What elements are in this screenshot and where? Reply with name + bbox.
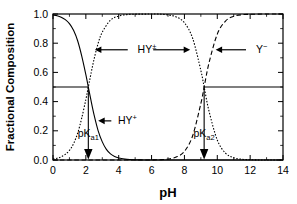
x-tick-label: 2 (83, 164, 89, 176)
y-tick-label: 0.6 (33, 66, 48, 78)
annotation-pka1-subscript: a1 (90, 133, 98, 142)
x-tick-label: 4 (116, 164, 122, 176)
annotation-pka2-text: pK (193, 127, 206, 139)
y-tick-label: 0.0 (33, 154, 48, 166)
composition-vs-ph-chart: 02468101214 0.00.20.40.60.81.0 HY±HY+Y−p… (0, 0, 297, 204)
annotation-y-anion-superscript: − (263, 42, 268, 51)
y-tick-label: 1.0 (33, 8, 48, 20)
x-axis-tick-labels: 02468101214 (50, 164, 289, 176)
annotation-hy-zwitterion-text: HY (138, 43, 153, 55)
x-tick-label: 14 (277, 164, 289, 176)
annotation-pka2-subscript: a2 (206, 133, 214, 142)
annotation-y-anion-text: Y (256, 43, 263, 55)
y-tick-label: 0.4 (33, 95, 48, 107)
annotation-pka1-text: pK (78, 127, 91, 139)
annotation-hy-zwitterion-superscript: ± (152, 42, 156, 51)
chart-figure: 02468101214 0.00.20.40.60.81.0 HY±HY+Y−p… (0, 0, 297, 204)
y-tick-label: 0.2 (33, 124, 48, 136)
x-tick-label: 8 (182, 164, 188, 176)
annotation-hy-cation-text: HY (118, 114, 133, 126)
x-axis-title: pH (159, 185, 176, 200)
x-tick-label: 10 (211, 164, 223, 176)
x-tick-label: 0 (50, 164, 56, 176)
y-axis-title: Fractional Composition (4, 23, 16, 151)
annotation-hy-cation-superscript: + (132, 113, 137, 122)
y-tick-label: 0.8 (33, 37, 48, 49)
y-axis-tick-labels: 0.00.20.40.60.81.0 (33, 8, 48, 166)
x-tick-label: 12 (244, 164, 256, 176)
x-tick-label: 6 (149, 164, 155, 176)
